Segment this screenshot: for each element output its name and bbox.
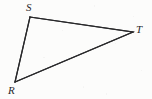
geometry-figure-triangle-rst: S T R [0,0,152,99]
edge-s-to-t [30,17,133,32]
triangle-drawing-canvas [0,0,152,99]
vertex-label-t: T [136,24,142,35]
triangle-outline [15,17,133,82]
edge-r-to-s [15,17,30,82]
edge-t-to-r [15,32,133,82]
vertex-label-s: S [26,2,32,13]
vertex-label-r: R [8,85,15,96]
